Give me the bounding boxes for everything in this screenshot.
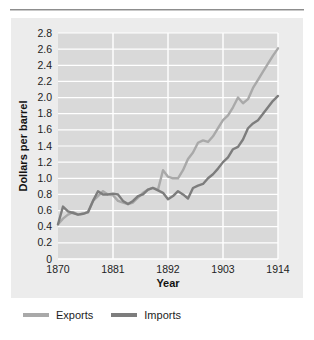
y-axis-tick-label: 2.8: [37, 27, 52, 39]
chart-panel: 2.82.62.42.22.01.81.61.41.21.00.80.60.40…: [11, 18, 303, 298]
legend-swatch-imports: [111, 313, 137, 317]
y-axis-tick-label: 1.4: [37, 140, 52, 152]
y-axis-tick-label: 1.6: [37, 123, 52, 135]
header-divider: [10, 9, 304, 11]
y-axis-tick-label: 2.2: [37, 75, 52, 87]
x-axis-tick-label: 1892: [156, 263, 180, 275]
y-axis-tick-label: 1.2: [37, 156, 52, 168]
y-axis-title: Dollars per barrel: [17, 100, 29, 191]
y-axis-tick-label: 0.2: [37, 236, 52, 248]
x-axis-tick-label: 1914: [266, 263, 290, 275]
chart-plot: 2.82.62.42.22.01.81.61.41.21.00.80.60.40…: [11, 18, 303, 298]
legend-label-imports: Imports: [144, 309, 181, 321]
chart-legend: Exports Imports: [11, 300, 303, 330]
y-axis-tick-label: 1.0: [37, 172, 52, 184]
y-axis-tick-label: 0.6: [37, 204, 52, 216]
y-axis-tick-label: 0.4: [37, 220, 52, 232]
chart-title: [0, 0, 314, 8]
y-axis-tick-label: 2.6: [37, 43, 52, 55]
legend-swatch-exports: [23, 313, 49, 317]
legend-item-imports: Imports: [111, 309, 181, 321]
chart-figure: 2.82.62.42.22.01.81.61.41.21.00.80.60.40…: [0, 0, 314, 340]
x-axis-tick-label: 1903: [211, 263, 235, 275]
y-axis-tick-label: 1.8: [37, 107, 52, 119]
x-axis-title: Year: [156, 277, 180, 289]
legend-label-exports: Exports: [56, 309, 93, 321]
y-axis-tick-label: 2.4: [37, 59, 52, 71]
legend-item-exports: Exports: [23, 309, 93, 321]
y-axis-tick-label: 2.0: [37, 91, 52, 103]
y-axis-tick-label: 0.8: [37, 188, 52, 200]
x-axis-tick-label: 1881: [101, 263, 125, 275]
x-axis-tick-label: 1870: [46, 263, 70, 275]
